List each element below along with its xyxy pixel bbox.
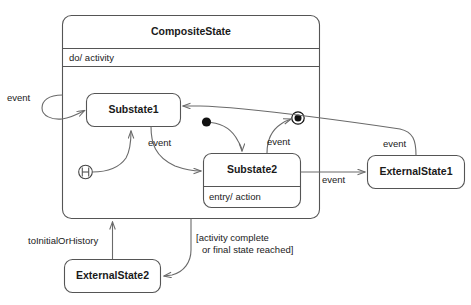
history-state[interactable]	[79, 165, 93, 179]
substate1[interactable]: Substate1	[87, 94, 181, 127]
label-external1-to-substate1-event: event	[383, 138, 407, 149]
transition-composite-to-external2[interactable]	[164, 219, 191, 277]
label-composite-to-external2-line1: [activity complete	[196, 232, 269, 243]
external-state-1-label: ExternalState1	[380, 165, 453, 177]
external-state-2-label: ExternalState2	[76, 269, 149, 281]
label-self-loop-event: event	[7, 92, 31, 103]
substate2[interactable]: Substate2 entry/ action	[204, 154, 301, 208]
label-substate2-to-final-event: event	[267, 136, 291, 147]
composite-state-activity: do/ activity	[69, 52, 114, 63]
diagram-canvas: CompositeState do/ activity Substate1 Su…	[0, 0, 471, 305]
substate2-label: Substate2	[227, 163, 277, 175]
external-state-1[interactable]: ExternalState1	[368, 156, 465, 189]
initial-state-icon[interactable]	[202, 117, 211, 126]
label-external2-to-composite: toInitialOrHistory	[28, 235, 98, 246]
substate1-label: Substate1	[108, 103, 158, 115]
initial-state[interactable]	[202, 117, 211, 126]
label-composite-to-external2-line2: or final state reached]	[202, 244, 293, 255]
label-substate1-to-substate2-event: event	[148, 137, 172, 148]
external-state-2[interactable]: ExternalState2	[65, 260, 161, 293]
composite-state-title: CompositeState	[151, 25, 231, 37]
uml-state-diagram: CompositeState do/ activity Substate1 Su…	[0, 0, 471, 305]
substate2-entry-action: entry/ action	[209, 191, 261, 202]
label-substate2-to-external1-event: event	[322, 174, 346, 185]
